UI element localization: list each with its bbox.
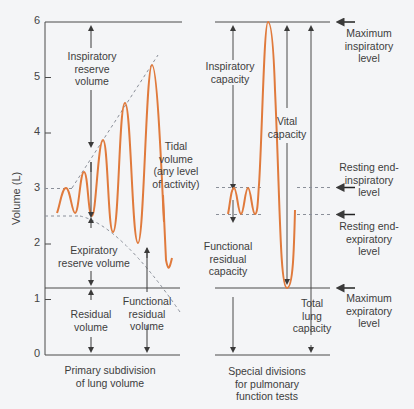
label-inspiratory-capacity: Inspiratorycapacity (200, 60, 260, 85)
label-inspiratory-reserve-volume: Inspiratoryreservevolume (62, 50, 122, 88)
label-resting-end-expiratory-level: Resting end-expiratorylevel (333, 220, 405, 258)
left-panel-caption: Primary subdivisionof lung volume (55, 364, 165, 389)
y-tick-2: 2 (26, 236, 40, 248)
y-tick-5: 5 (26, 70, 40, 82)
label-functional-residual-volume: Functionalresidualvolume (118, 295, 176, 333)
label-vital-capacity: Vitalcapacity (262, 115, 312, 140)
y-tick-0: 0 (26, 347, 40, 359)
y-tick-3: 3 (26, 181, 40, 193)
y-axis-label: Volume (L) (10, 172, 22, 225)
label-residual-volume: Residualvolume (64, 308, 118, 333)
label-tidal-volume: Tidalvolume(any levelof activity) (148, 140, 204, 190)
label-maximum-inspiratory-level: Maximuminspiratorylevel (333, 27, 405, 65)
label-resting-end-inspiratory-level: Resting end-inspiratorylevel (333, 161, 405, 199)
label-maximum-expiratory-level: Maximumexpiratorylevel (333, 292, 405, 330)
y-tick-6: 6 (26, 14, 40, 26)
label-total-lung-capacity: Totallungcapacity (290, 297, 334, 335)
left-trace-tail (163, 195, 172, 268)
label-functional-residual-capacity: Functionalresidualcapacity (200, 240, 256, 278)
y-tick-4: 4 (26, 125, 40, 137)
right-panel-caption: Special divisionsfor pulmonaryfunction t… (222, 365, 312, 403)
label-expiratory-reserve-volume: Expiratoryreserve volume (52, 244, 136, 269)
y-tick-1: 1 (26, 292, 40, 304)
